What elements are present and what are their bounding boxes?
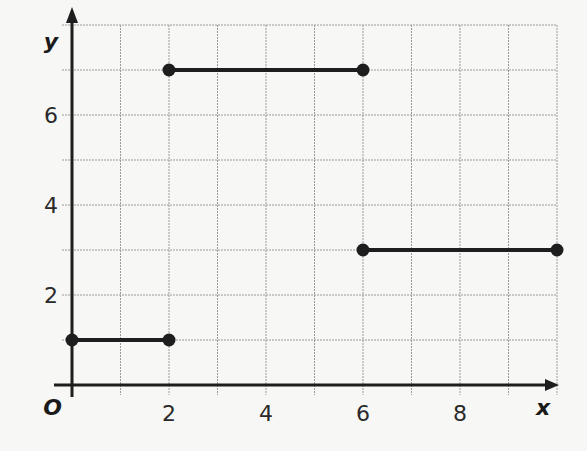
- closed-endpoint: [357, 244, 370, 257]
- labels: 2468246Oyx: [43, 29, 551, 426]
- x-tick-label: 4: [259, 401, 273, 426]
- x-tick-label: 6: [356, 401, 370, 426]
- closed-endpoint: [357, 64, 370, 77]
- y-tick-label: 4: [44, 193, 58, 218]
- closed-endpoint: [66, 334, 79, 347]
- y-axis-label: y: [44, 29, 60, 54]
- closed-endpoint: [163, 334, 176, 347]
- x-tick-label: 8: [453, 401, 467, 426]
- y-axis-arrow-icon: [66, 7, 78, 23]
- origin-label: O: [43, 395, 62, 420]
- x-tick-label: 2: [162, 401, 176, 426]
- x-axis-label: x: [535, 395, 551, 420]
- y-tick-label: 6: [44, 103, 58, 128]
- y-tick-label: 2: [44, 283, 58, 308]
- closed-endpoint: [163, 64, 176, 77]
- closed-endpoint: [551, 244, 564, 257]
- step-function-chart: 2468246Oyx: [0, 0, 587, 451]
